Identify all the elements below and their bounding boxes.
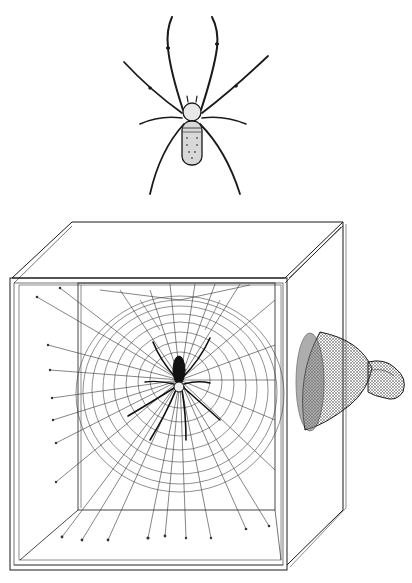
lamp-illustration	[296, 332, 404, 431]
illustration	[0, 0, 412, 583]
spider-top-illustration	[124, 17, 268, 194]
box-illustration	[10, 222, 346, 570]
spider-in-web-illustration	[128, 338, 220, 440]
orb-web-illustration	[36, 284, 284, 541]
